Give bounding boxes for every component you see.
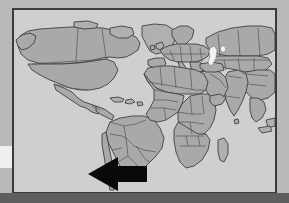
bottom-band <box>0 193 289 203</box>
world-map-graphic: .land { fill:#a9a9a9; stroke:#4a4a4a; st… <box>14 10 275 192</box>
map-frame: .land { fill:#a9a9a9; stroke:#4a4a4a; st… <box>12 8 277 194</box>
aral-sea-icon <box>220 46 225 52</box>
screenshot-stage: .land { fill:#a9a9a9; stroke:#4a4a4a; st… <box>0 0 289 203</box>
